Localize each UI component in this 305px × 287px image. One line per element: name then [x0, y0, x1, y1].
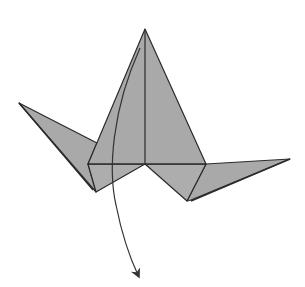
lower-body	[88, 164, 206, 201]
body-flap	[88, 29, 206, 164]
crane-diagram-svg	[0, 0, 305, 287]
origami-diagram	[0, 0, 305, 287]
left-wing	[19, 103, 97, 192]
